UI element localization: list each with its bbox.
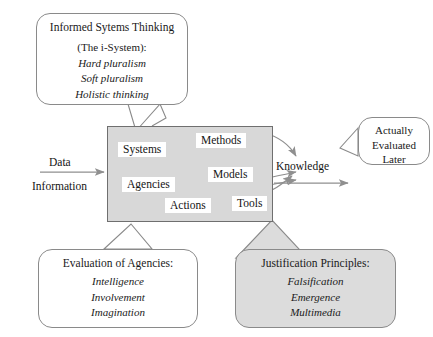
callout-ael-line-0: Actually <box>359 123 429 138</box>
core-chip-tools[interactable]: Tools <box>232 196 267 211</box>
callout-actually-evaluated-later: Actually Evaluated Later <box>358 117 430 165</box>
input-label-data: Data <box>49 156 71 168</box>
callout-informed-systems-thinking: Informed Sytems Thinking (The i-System):… <box>36 13 188 105</box>
output-label-knowledge: Knowledge <box>276 160 329 172</box>
callout-justification-principles: Justification Principles: Falsification … <box>235 249 396 328</box>
callout-ist-subtitle: (The i-System): <box>37 40 187 56</box>
core-chip-methods[interactable]: Methods <box>196 133 246 148</box>
callout-jp-item-2: Multimedia <box>236 305 395 321</box>
core-chip-models[interactable]: Models <box>208 167 253 182</box>
callout-eoa-item-0: Intelligence <box>39 274 197 290</box>
callout-tail-ist-extension <box>152 104 166 126</box>
input-label-information: Information <box>32 180 87 192</box>
callout-ael-line-2: Later <box>359 152 429 167</box>
diagram-canvas: Systems Methods Agencies Models Actions … <box>0 0 433 337</box>
callout-ist-item-1: Soft pluralism <box>37 71 187 87</box>
core-chip-actions[interactable]: Actions <box>165 198 211 213</box>
callout-eoa-item-2: Imagination <box>39 305 197 321</box>
callout-eoa-item-1: Involvement <box>39 290 197 306</box>
core-chip-agencies[interactable]: Agencies <box>122 177 175 192</box>
callout-evaluation-of-agencies: Evaluation of Agencies: Intelligence Inv… <box>38 249 198 328</box>
callout-tail-evaluation-of-agencies <box>104 224 152 249</box>
callout-jp-item-1: Emergence <box>236 290 395 306</box>
callout-ist-item-2: Holistic thinking <box>37 87 187 103</box>
callout-ist-item-0: Hard pluralism <box>37 56 187 72</box>
callout-jp-title: Justification Principles: <box>236 257 395 269</box>
callout-tail-actually-evaluated-later <box>340 128 358 156</box>
core-chip-systems[interactable]: Systems <box>118 142 166 157</box>
callout-eoa-title: Evaluation of Agencies: <box>39 257 197 269</box>
callout-ael-line-1: Evaluated <box>359 138 429 153</box>
callout-jp-item-0: Falsification <box>236 274 395 290</box>
callout-ist-title: Informed Sytems Thinking <box>37 21 187 33</box>
